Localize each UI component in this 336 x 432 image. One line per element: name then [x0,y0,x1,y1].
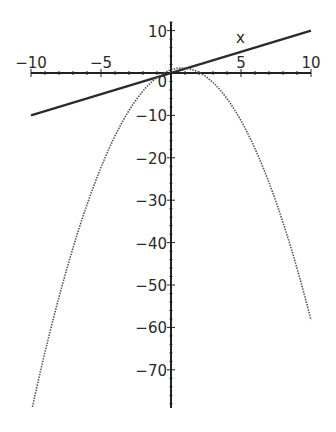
x-tick-label: 10 [301,54,320,72]
x-tick-label: −10 [15,54,47,72]
x-tick-label: −5 [90,54,112,72]
y-tick-label: −50 [135,277,167,295]
plot-canvas: −10−5510100−10−20−30−40−50−60−70 x [0,0,336,432]
y-tick-label: −20 [135,150,167,168]
axes [31,22,311,408]
x-tick-label: 5 [236,54,246,72]
y-tick-label: −10 [135,107,167,125]
tick-labels: −10−5510100−10−20−30−40−50−60−70 [15,23,320,380]
y-tick-label: −70 [135,362,167,380]
x-axis-label: x [236,29,245,47]
y-tick-label: −40 [135,235,167,253]
y-tick-label: −30 [135,192,167,210]
y-tick-label: −60 [135,319,167,337]
y-tick-label: 10 [148,23,167,41]
